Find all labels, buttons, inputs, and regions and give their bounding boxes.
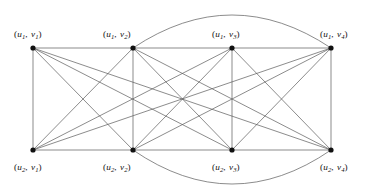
vertex-label-u1v4: (u1, v4) (320, 30, 348, 39)
vertex-label-u1v3: (u1, v3) (212, 30, 240, 39)
graph-figure: (u1, v1)(u1, v2)(u1, v3)(u1, v4)(u2, v1)… (0, 0, 373, 193)
graph-vertex-u1v4 (328, 45, 333, 50)
vertex-label-u1v1: (u1, v1) (14, 30, 42, 39)
graph-vertex-u1v2 (130, 45, 135, 50)
vertex-label-u2v1: (u2, v1) (14, 163, 42, 172)
graph-canvas (0, 0, 373, 193)
graph-vertex-u2v3 (229, 147, 234, 152)
vertex-label-u2v2: (u2, v2) (103, 163, 131, 172)
graph-vertex-u2v2 (130, 147, 135, 152)
vertex-label-u2v4: (u2, v4) (320, 163, 348, 172)
vertex-label-u2v3: (u2, v3) (212, 163, 240, 172)
graph-vertex-u1v3 (229, 45, 234, 50)
graph-vertex-u2v1 (30, 147, 35, 152)
graph-vertex-u2v4 (328, 147, 333, 152)
straight-edge-group (33, 48, 331, 150)
graph-vertex-u1v1 (30, 45, 35, 50)
vertex-label-u1v2: (u1, v2) (103, 30, 131, 39)
